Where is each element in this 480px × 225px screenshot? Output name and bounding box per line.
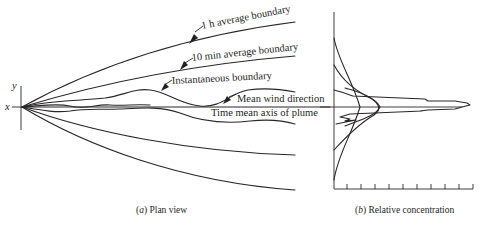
one-hour-boundary-lower: [22, 107, 295, 190]
panel-b-relative-concentration: (b) Relative concentration: [320, 12, 473, 216]
plume-diagram: y x: [0, 0, 480, 225]
x-axis-label: x: [4, 101, 10, 112]
instantaneous-arrow-icon: [161, 83, 169, 91]
ten-min-profile-curve: [334, 65, 379, 150]
panel-a-caption: (a) Plan view: [136, 205, 187, 216]
y-axis-label: y: [11, 80, 17, 91]
one-hour-arrow-icon: [189, 34, 198, 44]
instantaneous-boundary-label: Instantaneous boundary: [172, 70, 273, 86]
time-mean-axis-label: Time mean axis of plume: [211, 107, 318, 118]
figure-canvas: y x: [0, 0, 480, 225]
panel-b-caption: (b) Relative concentration: [355, 205, 454, 216]
one-hour-profile-curve: [334, 38, 360, 180]
ten-min-boundary-label: 10 min average boundary: [191, 41, 299, 63]
concentration-axis-ticks: [347, 184, 473, 189]
mean-wind-direction-label: Mean wind direction: [237, 93, 325, 104]
one-hour-boundary-label: 1 h average boundary: [200, 3, 292, 31]
panel-a-plan-view: y x: [4, 3, 330, 216]
